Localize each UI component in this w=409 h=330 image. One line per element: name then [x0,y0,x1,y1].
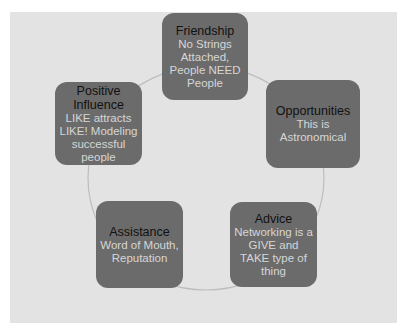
node-description: LIKE attracts LIKE! Modeling successful … [59,112,138,164]
node-title: Advice [255,212,293,226]
node-title: Friendship [176,24,234,38]
node-title: Opportunities [276,104,350,118]
node-description: Word of Mouth, Reputation [100,239,179,265]
node-description: No Strings Attached, People NEED People [166,38,244,90]
node-title: Assistance [109,225,169,239]
node-positive-influence: Positive Influence LIKE attracts LIKE! M… [55,82,142,165]
node-friendship: Friendship No Strings Attached, People N… [162,13,248,100]
node-assistance: Assistance Word of Mouth, Reputation [96,201,183,288]
node-advice: Advice Networking is a GIVE and TAKE typ… [230,202,317,287]
node-title: Positive Influence [59,84,138,112]
node-description: This is Astronomical [270,118,356,144]
node-description: Networking is a GIVE and TAKE type of th… [234,226,313,278]
node-opportunities: Opportunities This is Astronomical [266,80,360,168]
